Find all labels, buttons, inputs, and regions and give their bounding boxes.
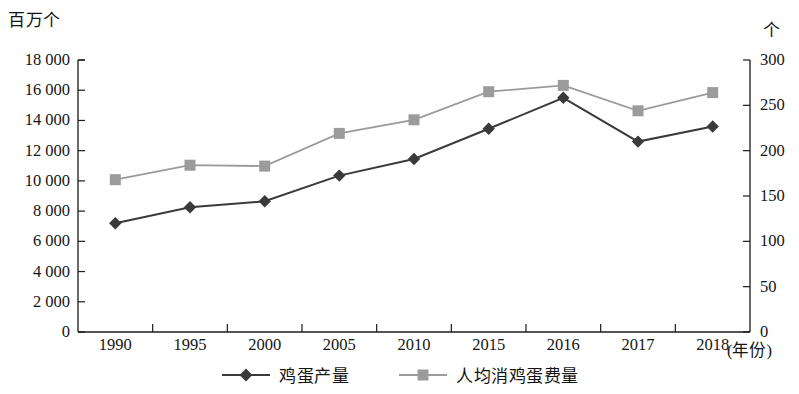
left-axis-tick-6000: 6 000 [33,233,70,250]
data-point-marker [110,174,121,185]
x-axis-tick-2000: 2000 [248,337,281,354]
right-axis-tick-50: 50 [760,278,777,295]
right-axis-tick-100: 100 [760,233,785,250]
right-axis-unit-label: 个 [763,16,781,41]
data-point-marker [259,161,270,172]
data-point-marker [557,92,569,104]
left-axis-tick-4000: 4 000 [33,263,70,280]
data-point-marker [632,135,644,147]
square-marker-icon [397,366,449,384]
data-point-marker [483,86,494,97]
legend-label: 人均消鸡蛋费量 [456,362,579,387]
x-axis-tick-2015: 2015 [472,337,505,354]
series-per-capita-consumption [110,80,718,185]
left-axis-tick-8000: 8 000 [33,203,70,220]
x-axis-tick-2018: 2018 [696,337,729,354]
right-axis-tick-300: 300 [760,52,785,69]
data-point-marker [185,160,196,171]
left-axis-tick-10000: 10 000 [25,173,70,190]
left-axis-tick-18000: 18 000 [25,52,70,69]
egg-production-consumption-chart: 百万个 个 02 0004 0006 0008 00010 00012 0001… [0,0,799,394]
right-axis-tick-150: 150 [760,188,785,205]
data-point-marker [259,195,271,207]
x-axis-tick-2010: 2010 [398,337,431,354]
left-axis-unit-label: 百万个 [8,6,61,31]
left-axis-tick-2000: 2 000 [33,294,70,311]
left-axis-tick-12000: 12 000 [25,142,70,159]
data-point-marker [707,87,718,98]
right-axis-tick-200: 200 [760,142,785,159]
x-axis-tick-2016: 2016 [547,337,580,354]
x-axis-unit-label: (年份) [727,337,772,361]
data-point-marker [408,153,420,165]
chart-legend: 鸡蛋产量人均消鸡蛋费量 [0,362,799,387]
data-point-marker [334,128,345,139]
data-point-marker [409,114,420,125]
left-axis-tick-14000: 14 000 [25,112,70,129]
data-point-marker [633,105,644,116]
legend-item-egg-production[interactable]: 鸡蛋产量 [220,362,349,387]
data-point-marker [707,120,719,132]
x-axis-tick-1995: 1995 [174,337,207,354]
x-axis-tick-2017: 2017 [622,337,655,354]
diamond-marker-icon [220,366,272,384]
series-egg-production [109,92,719,230]
left-axis-tick-0: 0 [62,324,70,341]
data-point-marker [483,123,495,135]
x-axis-tick-2005: 2005 [323,337,356,354]
legend-label: 鸡蛋产量 [279,362,349,387]
right-axis-tick-250: 250 [760,97,785,114]
data-point-marker [184,201,196,213]
data-point-marker [109,217,121,229]
x-axis-tick-1990: 1990 [99,337,132,354]
data-point-marker [333,169,345,181]
data-point-marker [558,80,569,91]
legend-item-per-capita-consumption[interactable]: 人均消鸡蛋费量 [397,362,579,387]
left-axis-tick-16000: 16 000 [25,82,70,99]
